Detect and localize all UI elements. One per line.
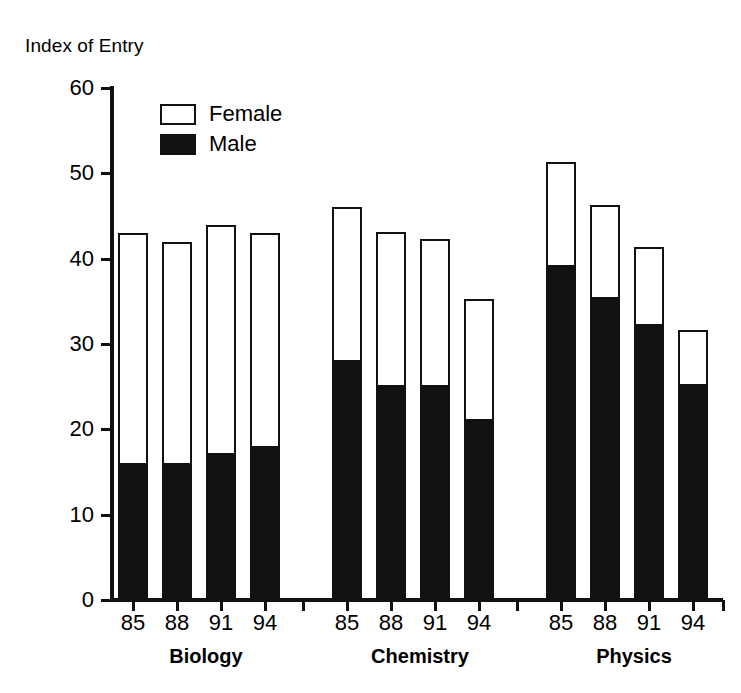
y-tick-label-40: 40 <box>38 248 94 270</box>
x-tick-label-physics-85: 85 <box>538 612 584 634</box>
y-tick-label-20: 20 <box>38 418 94 440</box>
bar-segment-male <box>250 446 280 600</box>
bar-segment-male <box>678 384 708 600</box>
bar-chemistry-85 <box>332 207 362 600</box>
legend-item-male: Male <box>160 130 282 158</box>
group-label-chemistry: Chemistry <box>320 645 520 667</box>
x-tick-label-chemistry-85: 85 <box>324 612 370 634</box>
x-tick-label-chemistry-88: 88 <box>368 612 414 634</box>
x-tick-separator-1 <box>516 600 519 611</box>
x-tick-label-physics-94: 94 <box>670 612 716 634</box>
bar-segment-male <box>420 385 450 600</box>
x-tick-label-biology-88: 88 <box>154 612 200 634</box>
bar-chemistry-88 <box>376 232 406 600</box>
y-axis-title: Index of Entry <box>25 35 144 57</box>
group-label-physics: Physics <box>534 645 734 667</box>
legend-label-female: Female <box>209 103 282 125</box>
chart-legend: Female Male <box>160 100 282 160</box>
bar-physics-88 <box>590 205 620 600</box>
legend-item-female: Female <box>160 100 282 128</box>
legend-label-male: Male <box>209 133 257 155</box>
x-tick-label-chemistry-94: 94 <box>456 612 502 634</box>
y-tick-label-0: 0 <box>38 589 94 611</box>
x-tick-label-biology-91: 91 <box>198 612 244 634</box>
x-tick-label-physics-88: 88 <box>582 612 628 634</box>
bar-segment-male <box>162 463 192 600</box>
bar-segment-male <box>590 297 620 600</box>
bar-chemistry-94 <box>464 299 494 600</box>
y-tick-60 <box>101 87 112 90</box>
y-tick-30 <box>101 343 112 346</box>
bar-biology-94 <box>250 233 280 600</box>
bar-biology-88 <box>162 242 192 600</box>
legend-swatch-male-icon <box>160 134 196 155</box>
bar-segment-male <box>546 265 576 600</box>
x-tick-label-physics-91: 91 <box>626 612 672 634</box>
bar-chemistry-91 <box>420 239 450 600</box>
y-tick-label-10: 10 <box>38 504 94 526</box>
bar-segment-male <box>206 453 236 600</box>
legend-swatch-female-icon <box>160 104 196 125</box>
bar-biology-91 <box>206 225 236 600</box>
y-tick-label-50: 50 <box>38 162 94 184</box>
x-tick-label-chemistry-91: 91 <box>412 612 458 634</box>
plot-area <box>112 88 720 600</box>
bar-segment-male <box>118 463 148 600</box>
x-tick-separator-2 <box>722 600 725 611</box>
bar-physics-94 <box>678 330 708 600</box>
x-tick-separator-0 <box>302 600 305 611</box>
stacked-bar-chart: Index of Entry 0102030405060 85889194858… <box>0 0 741 693</box>
y-tick-10 <box>101 514 112 517</box>
group-label-biology: Biology <box>106 645 306 667</box>
bar-segment-male <box>376 385 406 600</box>
bar-physics-91 <box>634 247 664 600</box>
x-tick-label-biology-85: 85 <box>110 612 156 634</box>
bar-biology-85 <box>118 233 148 600</box>
bar-segment-male <box>332 360 362 600</box>
x-tick-label-biology-94: 94 <box>242 612 288 634</box>
y-tick-0 <box>101 599 112 602</box>
y-tick-20 <box>101 428 112 431</box>
bar-segment-male <box>634 324 664 600</box>
y-tick-label-30: 30 <box>38 333 94 355</box>
bar-segment-male <box>464 419 494 600</box>
y-tick-label-60: 60 <box>38 77 94 99</box>
bar-physics-85 <box>546 162 576 600</box>
y-tick-50 <box>101 172 112 175</box>
y-tick-40 <box>101 258 112 261</box>
